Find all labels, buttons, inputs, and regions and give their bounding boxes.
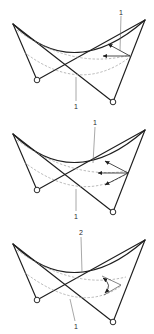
label-top: 2: [79, 229, 83, 236]
left-edge-line: [13, 24, 37, 80]
displaced-cable-upper: [17, 140, 128, 173]
swing-arc: [103, 278, 109, 293]
ridge-cable-curve: [13, 130, 145, 162]
left-edge-line: [13, 134, 37, 190]
support-node-left: [34, 187, 40, 193]
label-top: 1: [119, 9, 123, 16]
right-diagonal-line: [37, 130, 145, 190]
displaced-cable-upper: [17, 250, 126, 280]
displaced-cable-lower: [24, 52, 130, 75]
support-node-right: [110, 209, 116, 215]
left-diagonal-line: [13, 24, 113, 102]
right-diagonal-line: [37, 240, 145, 300]
label-bottom: 1: [74, 323, 78, 330]
swing-line-lower: [104, 285, 121, 295]
swing-line-upper: [102, 276, 121, 285]
left-edge-line: [13, 244, 37, 300]
leader-top: [81, 237, 82, 272]
hypar-figure: 1 1 1 1 2 1: [0, 0, 154, 334]
displacement-arrow: [105, 161, 128, 173]
diagram-1: 1 1: [13, 9, 145, 110]
ridge-cable-curve: [13, 240, 145, 272]
diagram-2: 1 1: [13, 119, 145, 220]
support-node-right: [110, 319, 116, 325]
label-bottom: 1: [74, 213, 78, 220]
left-diagonal-line: [13, 244, 113, 322]
support-node-left: [34, 297, 40, 303]
support-node-left: [34, 77, 40, 83]
label-bottom: 1: [74, 103, 78, 110]
displaced-cable-upper: [17, 30, 130, 59]
figure-canvas: 1 1 1 1 2 1: [0, 0, 154, 334]
leader-bottom: [70, 299, 75, 321]
support-node-right: [110, 99, 116, 105]
displacement-arrow: [108, 44, 130, 56]
diagram-3: 2 1: [13, 229, 145, 330]
label-top: 1: [93, 119, 97, 126]
ridge-cable-curve: [13, 20, 145, 52]
